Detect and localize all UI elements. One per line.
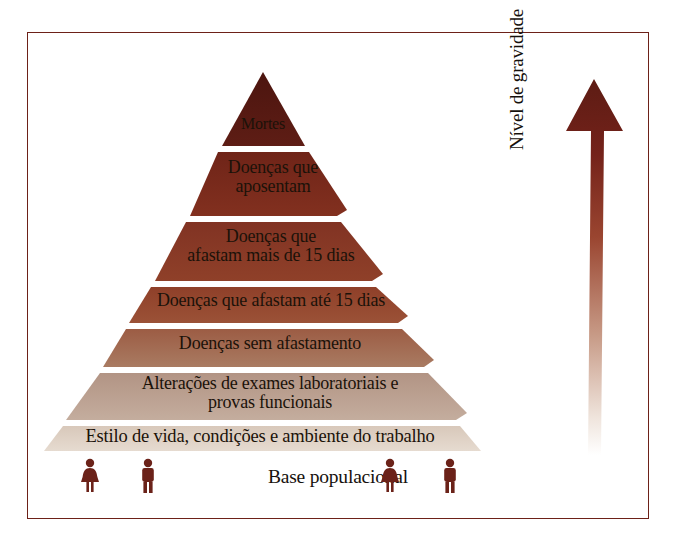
base-population-caption: Base populacional [27, 466, 649, 488]
pyramid-label-3: Doenças sem afastamento [120, 334, 420, 353]
pyramid-label-2: Alterações de exames laboratoriais e pro… [80, 374, 460, 412]
pyramid-label-1: Estilo de vida, condições e ambiente do … [50, 427, 470, 447]
pyramid-label-7: Mortes [203, 116, 323, 133]
pyramid-label-5: Doenças que afastam mais de 15 dias [146, 227, 396, 265]
person-female-icon [379, 458, 401, 494]
person-male-icon [439, 458, 461, 494]
person-female-icon [79, 458, 101, 494]
person-male-icon [137, 458, 159, 494]
pyramid-label-4: Doenças que afastam até 15 dias [126, 291, 416, 310]
base-population-row: Base populacional [27, 452, 649, 504]
severity-arrow-label: Nível de gravidade [506, 0, 528, 150]
pyramid-label-6: Doenças que aposentam [183, 158, 363, 196]
